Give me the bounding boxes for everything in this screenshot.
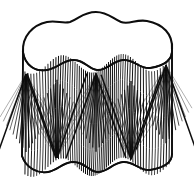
line-drawing-svg (0, 0, 194, 190)
left-side-edge (22, 52, 23, 156)
figure-canvas: Fluted scalloped cylinder Black-and-whit… (0, 0, 194, 190)
